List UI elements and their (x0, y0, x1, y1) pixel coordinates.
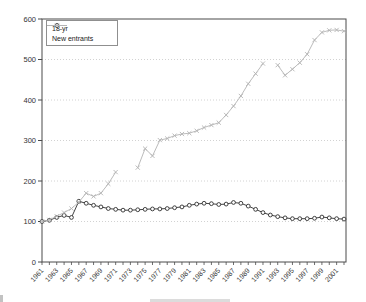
series-18-yr (40, 199, 346, 223)
series-marker (106, 207, 110, 211)
series-marker (114, 207, 118, 211)
series-marker (313, 216, 317, 220)
series-marker (231, 104, 235, 108)
chart-figure: 0100200300400500600196119631965196719691… (0, 0, 366, 302)
x-tick-label: 1993 (265, 267, 281, 283)
y-tick-label: 400 (23, 96, 36, 105)
x-tick-label: 1985 (206, 267, 222, 283)
series-marker (320, 215, 324, 219)
series-marker (224, 202, 228, 206)
series-marker (254, 207, 258, 211)
series-marker (254, 72, 258, 76)
legend-swatch-new-entrants (47, 21, 67, 30)
x-tick-label: 1971 (103, 267, 119, 283)
series-marker (283, 216, 287, 220)
series-marker (276, 215, 280, 219)
series-marker (305, 52, 309, 56)
x-tick-label: 1963 (44, 267, 60, 283)
series-marker (239, 201, 243, 205)
series-marker (150, 154, 154, 158)
series-marker (224, 113, 228, 117)
series-marker (327, 216, 331, 220)
series-marker (121, 208, 125, 212)
series-marker (239, 94, 243, 98)
x-tick-label: 1989 (235, 267, 251, 283)
series-marker (298, 217, 302, 221)
series-marker (114, 170, 118, 174)
y-tick-label: 500 (23, 55, 36, 64)
series-marker (261, 61, 265, 65)
series-marker (335, 217, 339, 221)
series-marker (187, 203, 191, 207)
series-marker (84, 201, 88, 205)
series-marker (342, 217, 346, 221)
series-marker (312, 38, 316, 42)
x-tick-label: 1969 (88, 267, 104, 283)
y-tick-label: 600 (23, 15, 36, 24)
series-line (42, 30, 344, 222)
series-marker (246, 204, 250, 208)
series-marker (217, 121, 221, 125)
series-marker (128, 208, 132, 212)
series-marker (290, 67, 294, 71)
x-tick-label: 1981 (176, 267, 192, 283)
series-marker (92, 203, 96, 207)
legend-label-new-entrants: New entrants (52, 34, 93, 43)
x-tick-label: 2001 (324, 267, 340, 283)
series-marker (195, 129, 199, 133)
series-marker (180, 205, 184, 209)
series-marker (165, 207, 169, 211)
series-marker (232, 201, 236, 205)
series-marker (84, 191, 88, 195)
series-marker (99, 205, 103, 209)
x-tick-label: 1983 (191, 267, 207, 283)
x-tick-label: 1961 (29, 267, 45, 283)
y-tick-label: 100 (23, 217, 36, 226)
y-tick-label: 0 (32, 258, 36, 267)
series-marker (91, 194, 95, 198)
series-marker (136, 166, 140, 170)
series-marker (305, 217, 309, 221)
series-marker (70, 216, 74, 220)
series-marker (291, 217, 295, 221)
x-tick-label: 1991 (250, 267, 266, 283)
series-marker (151, 207, 155, 211)
series-marker (158, 207, 162, 211)
y-tick-label: 200 (23, 177, 36, 186)
series-marker (69, 206, 73, 210)
x-tick-label: 1965 (58, 267, 74, 283)
series-marker (99, 191, 103, 195)
series-marker (143, 147, 147, 151)
x-tick-label: 1977 (147, 267, 163, 283)
series-marker (283, 73, 287, 77)
x-tick-label: 1999 (309, 267, 325, 283)
series-marker (202, 125, 206, 129)
series-marker (173, 206, 177, 210)
series-new-entrants (40, 28, 346, 224)
y-tick-label: 300 (23, 136, 36, 145)
x-tick-label: 1987 (220, 267, 236, 283)
series-marker (106, 182, 110, 186)
x-tick-label: 1995 (279, 267, 295, 283)
series-marker (268, 213, 272, 217)
series-marker (246, 82, 250, 86)
series-marker (202, 201, 206, 205)
series-marker (261, 211, 265, 215)
legend: 18-yr New entrants (46, 20, 118, 46)
x-tick-label: 1979 (162, 267, 178, 283)
legend-item-new-entrants: New entrants (52, 34, 113, 43)
series-marker (217, 203, 221, 207)
series-marker (276, 63, 280, 67)
series-marker (195, 202, 199, 206)
page-artifact-bottom-left (0, 295, 3, 302)
x-tick-label: 1975 (132, 267, 148, 283)
series-marker (143, 207, 147, 211)
series-marker (298, 61, 302, 65)
x-tick-label: 1967 (73, 267, 89, 283)
series-marker (210, 202, 214, 206)
x-tick-label: 1973 (117, 267, 133, 283)
x-tick-label: 1997 (294, 267, 310, 283)
series-marker (136, 208, 140, 212)
